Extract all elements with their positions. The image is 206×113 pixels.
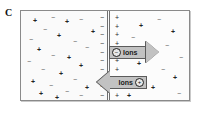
circled-negative-ion-icon: − bbox=[112, 48, 121, 57]
arrow-right-head-icon bbox=[146, 41, 159, 63]
arrow-left-head-icon bbox=[97, 71, 110, 93]
figure-panel-c: C −−−−−−−−−− ++++++++++ +−−+−+−+−+−−+−+−… bbox=[0, 0, 206, 113]
panel-letter: C bbox=[5, 8, 12, 18]
arrow-right-label: Ions bbox=[123, 49, 137, 56]
ion-flow-arrow-right: − Ions bbox=[109, 41, 159, 63]
arrow-right-body: − Ions bbox=[109, 46, 146, 59]
arrow-left-body: Ions + bbox=[110, 76, 147, 89]
arrow-left-label: Ions bbox=[119, 79, 133, 86]
chamber-box: −−−−−−−−−− ++++++++++ +−−+−+−+−+−−+−+−+−… bbox=[20, 10, 190, 101]
left-compartment bbox=[21, 11, 108, 100]
circled-positive-ion-icon: + bbox=[135, 78, 144, 87]
ion-flow-arrow-left: Ions + bbox=[97, 71, 147, 93]
